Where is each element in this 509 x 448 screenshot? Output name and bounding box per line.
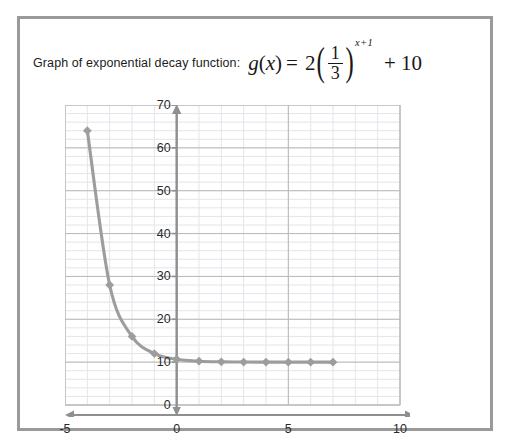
formula-constant-term: + 10 [384,53,422,74]
y-axis-tick-label: 70 [145,98,171,112]
formula-variable: x [266,53,275,74]
formula-right-paren: ) [345,50,353,75]
y-axis-tick-label: 60 [145,141,171,155]
formula-exponent: x+1 [355,38,373,49]
data-markers [83,126,337,366]
caption-row: Graph of exponential decay function: g(x… [33,42,473,84]
y-axis-tick-label: 10 [145,355,171,369]
x-axis-tick-label: 5 [285,422,292,436]
chart-canvas [65,105,400,405]
formula-equals: = [286,53,298,74]
formula-close-paren-var: ) [275,53,282,74]
formula-coefficient: 2 [305,53,316,74]
formula-fraction: 1 3 [328,44,343,82]
x-axis-tick-label: -5 [59,422,70,436]
y-axis-tick-label: 0 [145,398,171,412]
y-axis-tick-label: 20 [145,312,171,326]
formula-fraction-denominator: 3 [328,63,343,82]
chart-plot-area: 010203040506070 -50510 [65,105,400,405]
formula-expression: g(x) = 2 ( 1 3 ) x+1 + 10 [248,44,422,82]
y-axis-tick-label: 40 [145,227,171,241]
formula-fraction-numerator: 1 [328,44,343,62]
formula-open-paren-var: ( [259,53,266,74]
caption-label: Graph of exponential decay function: [33,56,240,70]
x-axis-tick-label: 10 [393,422,407,436]
chart-svg [65,105,410,417]
grid-minor [65,105,400,405]
x-axis-tick-label: 0 [173,422,180,436]
y-axis-tick-label: 30 [145,269,171,283]
formula-left-paren: ( [317,50,325,75]
grid-major [65,105,400,405]
y-axis-tick-label: 50 [145,184,171,198]
formula-function-name: g [248,53,259,74]
screenshot-page: Graph of exponential decay function: g(x… [0,0,509,448]
chart-axes [65,105,410,417]
